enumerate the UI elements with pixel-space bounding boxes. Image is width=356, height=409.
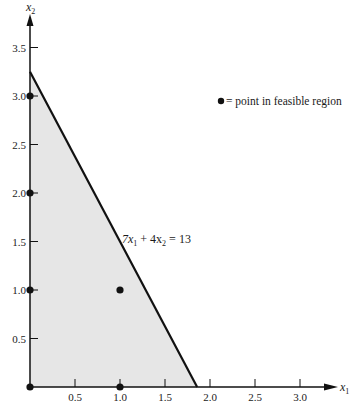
x-tick-label: 1.0 bbox=[113, 391, 127, 403]
feasible-point bbox=[26, 383, 33, 390]
x-tick-label: 2.5 bbox=[248, 391, 262, 403]
x-axis-label: x1 bbox=[339, 380, 349, 396]
legend-point-icon bbox=[218, 98, 224, 104]
x-tick-label: 0.5 bbox=[68, 391, 82, 403]
feasible-point bbox=[26, 189, 33, 196]
y-tick-label: 1.5 bbox=[12, 236, 26, 248]
x-tick-label: 1.5 bbox=[158, 391, 172, 403]
chart-canvas: 0.51.01.52.02.53.0 0.51.01.52.02.53.03.5… bbox=[0, 0, 356, 409]
x-axis-arrow-icon bbox=[324, 384, 338, 391]
y-axis-label: x2 bbox=[25, 0, 35, 16]
feasible-point bbox=[26, 92, 33, 99]
legend-text: = point in feasible region bbox=[226, 95, 342, 108]
legend: = point in feasible region bbox=[218, 95, 342, 108]
y-tick-label: 3.0 bbox=[12, 90, 26, 102]
y-tick-label: 3.5 bbox=[12, 42, 26, 54]
x-tick-label: 2.0 bbox=[203, 391, 217, 403]
y-tick-label: 0.5 bbox=[12, 333, 26, 345]
feasible-point bbox=[116, 383, 123, 390]
y-tick-label: 2.5 bbox=[12, 139, 26, 151]
y-tick-label: 1.0 bbox=[12, 284, 26, 296]
feasible-point bbox=[26, 286, 33, 293]
constraint-equation-label: 7x1 + 4x2 = 13 bbox=[122, 232, 191, 248]
feasible-point bbox=[116, 286, 123, 293]
y-tick-label: 2.0 bbox=[12, 187, 26, 199]
x-tick-label: 3.0 bbox=[293, 391, 307, 403]
